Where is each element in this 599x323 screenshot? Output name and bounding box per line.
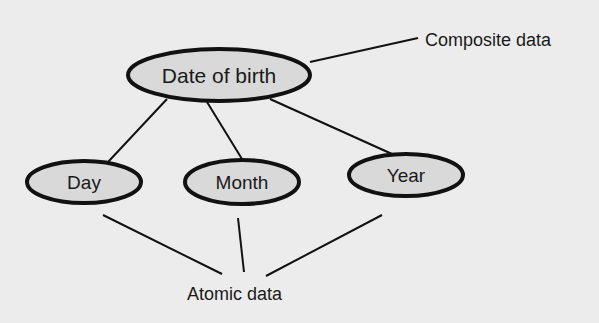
atomic-data-label: Atomic data xyxy=(187,284,283,304)
node-year: Year xyxy=(349,154,463,196)
node-label: Day xyxy=(67,172,101,193)
node-label: Date of birth xyxy=(162,64,276,87)
node-date-of-birth: Date of birth xyxy=(128,49,310,101)
composite-data-label: Composite data xyxy=(425,30,552,50)
data-hierarchy-diagram: Date of birth Day Month Year Composite d… xyxy=(0,0,599,323)
node-month: Month xyxy=(185,160,299,204)
node-label: Year xyxy=(387,165,426,186)
node-day: Day xyxy=(27,161,141,203)
node-label: Month xyxy=(216,172,269,193)
